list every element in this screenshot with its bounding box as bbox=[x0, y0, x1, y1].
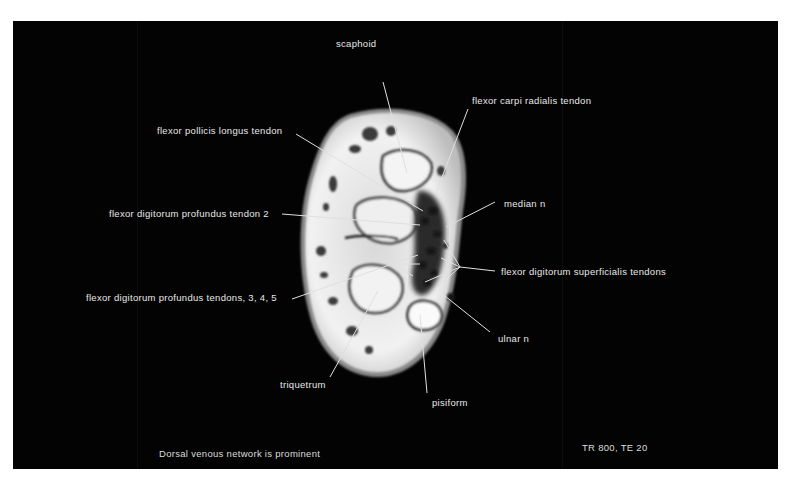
label-pisiform: pisiform bbox=[432, 397, 468, 408]
label-ulnar-n: ulnar n bbox=[498, 333, 529, 344]
label-flexor-carpi-radialis-tendon: flexor carpi radialis tendon bbox=[472, 95, 591, 106]
leader-fds bbox=[460, 267, 495, 271]
mri-figure-frame: scaphoid flexor carpi radialis tendon fl… bbox=[13, 21, 778, 469]
wrist-mri-cross-section bbox=[13, 21, 778, 469]
label-scaphoid: scaphoid bbox=[336, 38, 376, 49]
caption-scan-parameters: TR 800, TE 20 bbox=[582, 442, 648, 453]
label-median-n: median n bbox=[504, 198, 545, 209]
caption-dorsal-venous-network: Dorsal venous network is prominent bbox=[159, 448, 320, 459]
label-fdp-tendons-345: flexor digitorum profundus tendons, 3, 4… bbox=[86, 292, 277, 303]
label-fdp-tendon-2: flexor digitorum profundus tendon 2 bbox=[109, 208, 269, 219]
label-flexor-pollicis-longus-tendon: flexor pollicis longus tendon bbox=[157, 125, 282, 136]
label-triquetrum: triquetrum bbox=[280, 379, 326, 390]
leader-ulnar-n bbox=[445, 296, 490, 332]
label-fds-tendons: flexor digitorum superficialis tendons bbox=[501, 266, 666, 277]
